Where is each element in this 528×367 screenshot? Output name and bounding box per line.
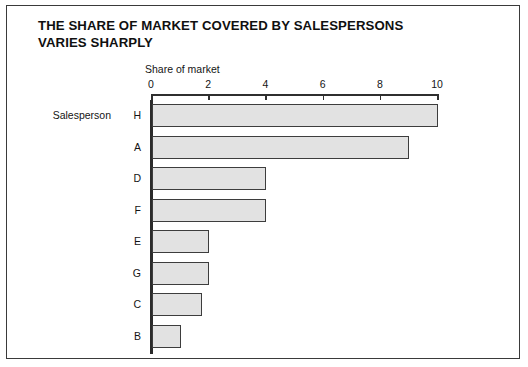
chart-title-line-1: THE SHARE OF MARKET COVERED BY SALESPERS… — [38, 17, 488, 34]
x-tick-mark-10 — [437, 94, 439, 100]
x-tick-mark-6 — [323, 94, 325, 100]
x-tick-mark-4 — [265, 94, 267, 100]
x-tick-label-8: 8 — [377, 78, 383, 90]
chart-figure-frame: THE SHARE OF MARKET COVERED BY SALESPERS… — [6, 5, 520, 359]
x-tick-mark-0 — [151, 94, 153, 100]
plot-area: SalespersonHADFEGCB — [7, 100, 521, 354]
bar-row: D — [7, 163, 521, 194]
bar-row: A — [7, 132, 521, 163]
bar-row: B — [7, 321, 521, 352]
x-tick-label-0: 0 — [148, 78, 154, 90]
bar-row: E — [7, 226, 521, 257]
category-label-C: C — [7, 289, 141, 320]
x-axis-line — [151, 94, 437, 96]
category-label-F: F — [7, 195, 141, 226]
chart-title-line-2: VARIES SHARPLY — [38, 34, 488, 51]
chart-title: THE SHARE OF MARKET COVERED BY SALESPERS… — [38, 17, 488, 51]
bar-G[interactable] — [152, 262, 209, 285]
bar-row: C — [7, 289, 521, 320]
category-label-H: H — [7, 100, 141, 131]
category-label-D: D — [7, 163, 141, 194]
bar-B[interactable] — [152, 325, 181, 348]
x-tick-mark-2 — [208, 94, 210, 100]
category-label-B: B — [7, 321, 141, 352]
bar-F[interactable] — [152, 199, 266, 222]
category-label-E: E — [7, 226, 141, 257]
bar-H[interactable] — [152, 104, 438, 127]
x-tick-label-2: 2 — [205, 78, 211, 90]
bar-A[interactable] — [152, 136, 409, 159]
bar-row: F — [7, 195, 521, 226]
x-tick-label-10: 10 — [431, 78, 443, 90]
bar-row: G — [7, 258, 521, 289]
category-label-G: G — [7, 258, 141, 289]
category-label-A: A — [7, 132, 141, 163]
x-tick-mark-8 — [380, 94, 382, 100]
x-axis-label: Share of market — [145, 63, 220, 75]
bar-row: SalespersonH — [7, 100, 521, 131]
x-tick-label-4: 4 — [262, 78, 268, 90]
x-tick-label-6: 6 — [320, 78, 326, 90]
bar-E[interactable] — [152, 230, 209, 253]
bar-D[interactable] — [152, 167, 266, 190]
bar-C[interactable] — [152, 293, 202, 316]
